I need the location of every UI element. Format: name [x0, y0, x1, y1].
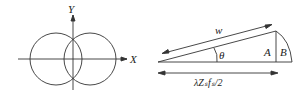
x-axis-arrow	[121, 57, 127, 61]
y-axis-label: Y	[68, 4, 74, 15]
w-label: w	[215, 25, 222, 36]
w-arrow-head-right	[265, 25, 272, 29]
diagram-canvas	[0, 0, 307, 96]
base-label: λZₛfₛ/2	[194, 78, 222, 88]
base-arrow-head-left	[158, 71, 165, 75]
x-axis-label: X	[130, 54, 137, 65]
base-arrow-head-right	[271, 71, 278, 75]
theta-label: θ	[219, 50, 224, 61]
w-arrow-head-left	[162, 50, 169, 54]
a-label: A	[264, 47, 271, 58]
y-axis-arrow	[71, 15, 75, 21]
b-label: B	[280, 47, 287, 58]
angle-arc	[214, 48, 217, 62]
